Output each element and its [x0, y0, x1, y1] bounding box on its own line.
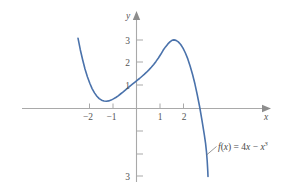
function-equation-label: f(x) = 4x − x3 — [218, 140, 269, 153]
y-tick-label-neg3: 3 — [125, 172, 130, 182]
y-tick-label-1: 1 — [125, 81, 130, 91]
x-tick-label-1: 1 — [158, 112, 163, 122]
x-tick-label-neg1: −1 — [106, 112, 116, 122]
y-axis-arrowhead — [133, 11, 140, 20]
y-tick-label-3: 3 — [125, 36, 130, 46]
x-tick-label-2: 2 — [182, 112, 187, 122]
x-tick-label-neg2: −2 — [83, 112, 93, 122]
function-label-minus: − — [250, 142, 260, 152]
annotation-leader-line — [207, 147, 217, 156]
y-tick-label-2: 2 — [125, 58, 130, 68]
y-axis-label: y — [125, 11, 131, 21]
function-graph-figure: y x −2 −1 1 2 3 2 1 3 f(x) = 4x − x3 — [0, 0, 285, 192]
x-axis-label: x — [263, 112, 269, 122]
function-label-equals: = 4 — [231, 142, 246, 152]
function-curve — [78, 38, 208, 176]
plot-canvas: y x −2 −1 1 2 3 2 1 3 f(x) = 4x − x3 — [0, 0, 285, 192]
function-label-exponent: 3 — [264, 140, 269, 147]
